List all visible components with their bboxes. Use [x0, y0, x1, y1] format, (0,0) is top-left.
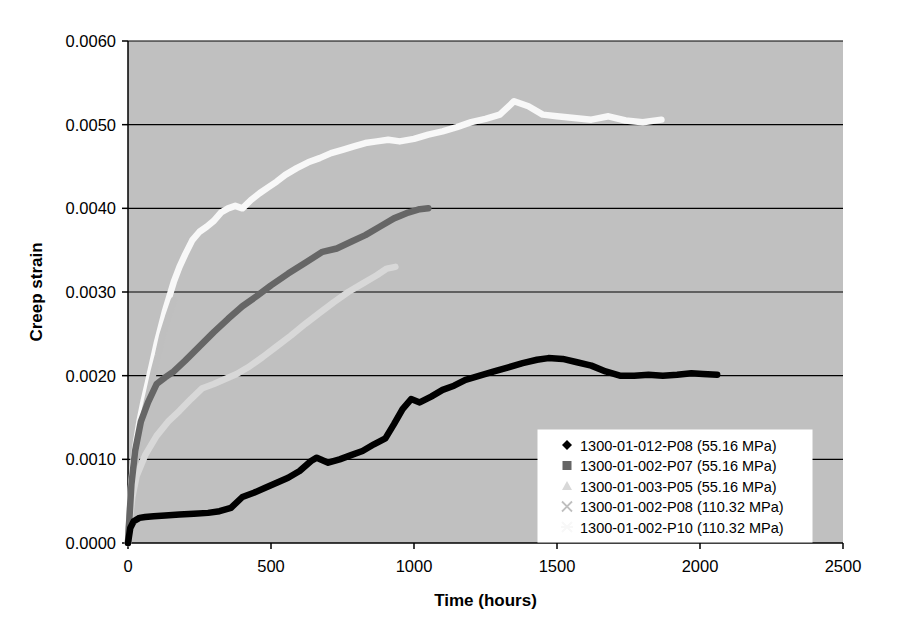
legend-item[interactable]: 1300-01-002-P10 (110.32 MPa): [561, 520, 784, 536]
x-tick-label: 2500: [825, 557, 862, 575]
creep-strain-chart: 0.00000.00100.00200.00300.00400.00500.00…: [0, 0, 897, 638]
x-tick-label: 2000: [682, 557, 719, 575]
legend-item-label: 1300-01-002-P08 (110.32 MPa): [580, 499, 784, 515]
y-tick-label: 0.0030: [66, 283, 116, 301]
legend-item[interactable]: 1300-01-002-P08 (110.32 MPa): [562, 499, 784, 515]
y-tick-label: 0.0020: [66, 367, 116, 385]
y-tick-label: 0.0040: [66, 199, 116, 217]
legend-item[interactable]: 1300-01-002-P07 (55.16 MPa): [563, 458, 777, 474]
x-tick-label: 0: [123, 557, 132, 575]
y-tick-label: 0.0000: [66, 534, 116, 552]
legend-item-label: 1300-01-012-P08 (55.16 MPa): [580, 438, 777, 454]
y-tick-label: 0.0060: [66, 32, 116, 50]
x-tick-label: 1000: [396, 557, 433, 575]
chart-figure: 0.00000.00100.00200.00300.00400.00500.00…: [0, 0, 897, 638]
legend-item-label: 1300-01-003-P05 (55.16 MPa): [580, 479, 777, 495]
y-tick-label: 0.0050: [66, 116, 116, 134]
x-axis-title: Time (hours): [434, 591, 537, 610]
x-tick-label: 1500: [539, 557, 576, 575]
y-tick-label: 0.0010: [66, 450, 116, 468]
legend-marker-square: [563, 461, 572, 470]
legend-item[interactable]: 1300-01-012-P08 (55.16 MPa): [562, 438, 777, 454]
legend-item-label: 1300-01-002-P07 (55.16 MPa): [580, 458, 777, 474]
legend-item-label: 1300-01-002-P10 (110.32 MPa): [580, 520, 784, 536]
legend-item[interactable]: 1300-01-003-P05 (55.16 MPa): [562, 479, 777, 495]
y-axis-title: Creep strain: [27, 242, 46, 341]
x-tick-label: 500: [257, 557, 285, 575]
